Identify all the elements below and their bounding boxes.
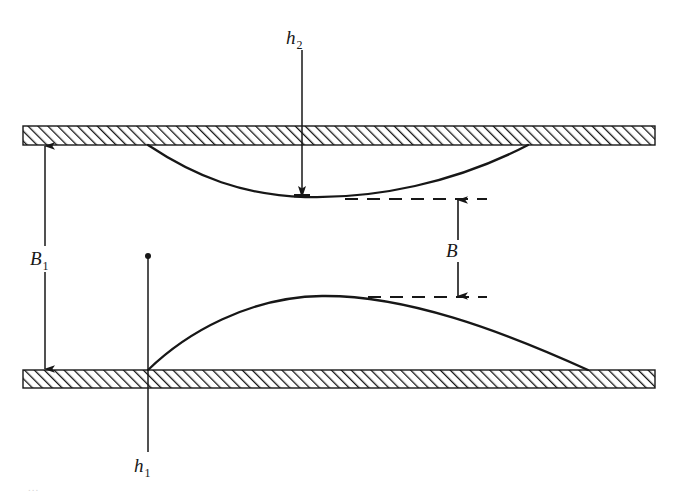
upper-plate xyxy=(23,126,655,145)
figure-root: B1 B h2 h1 ... xyxy=(0,0,676,493)
dimension-b1-label-sub: 1 xyxy=(43,259,49,273)
dimension-b1: B1 xyxy=(30,146,49,369)
label-h1-base: h xyxy=(134,455,144,476)
lower-plate-body xyxy=(23,370,655,388)
upper-plate-body xyxy=(23,126,655,145)
upper-flow-curve xyxy=(148,145,528,197)
dimension-b: B xyxy=(446,200,458,296)
lower-plate xyxy=(23,370,655,388)
partial-caption: ... xyxy=(28,481,39,493)
technical-diagram: B1 B h2 h1 xyxy=(0,0,676,493)
dimension-b1-label-base: B xyxy=(30,248,42,269)
leader-h1-dot xyxy=(145,253,151,259)
leader-h1: h1 xyxy=(134,253,151,480)
label-h1: h1 xyxy=(134,455,151,480)
label-h1-sub: 1 xyxy=(145,466,151,480)
leader-h2: h2 xyxy=(286,27,310,198)
label-h2-base: h xyxy=(286,27,296,48)
lower-flow-curve xyxy=(148,296,588,370)
label-h2-sub: 2 xyxy=(297,38,303,52)
leader-h2-tbar xyxy=(294,194,310,197)
dimension-b-label: B xyxy=(446,240,458,261)
label-h2: h2 xyxy=(286,27,303,52)
dimension-b1-label: B1 xyxy=(30,248,49,273)
